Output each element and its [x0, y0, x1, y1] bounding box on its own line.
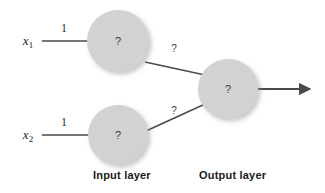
output-node-1-value: ? — [225, 83, 231, 95]
input-node-2-value: ? — [115, 129, 121, 141]
input-weight-label-2: 1 — [61, 115, 67, 129]
input-node-1-value: ? — [115, 35, 121, 47]
output-layer-caption: Output layer — [199, 169, 266, 181]
input-variable-subscript-1: 1 — [29, 40, 34, 50]
hidden-edge-label-1: ? — [171, 43, 177, 54]
input-variable-subscript-2: 2 — [29, 134, 34, 144]
network-canvas: ? ? ? 1 1 ? ? x1 x2 — [0, 0, 325, 193]
input-layer-caption: Input layer — [93, 169, 151, 181]
input-variable-label-2: x2 — [22, 127, 33, 144]
input-variable-label-1: x1 — [22, 33, 33, 50]
neural-network-figure: ? ? ? 1 1 ? ? x1 x2 Input layer Output l… — [0, 0, 325, 193]
input-weight-label-1: 1 — [61, 21, 67, 35]
hidden-edge-1 — [145, 62, 205, 75]
hidden-edge-label-2: ? — [171, 105, 177, 116]
